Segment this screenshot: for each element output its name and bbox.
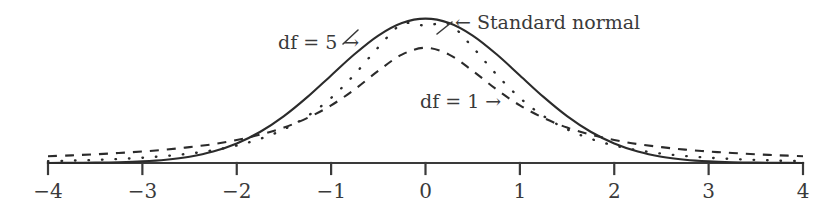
x-axis-tick-label: 1 bbox=[490, 181, 550, 201]
annotation-standard-normal: ← Standard normal bbox=[455, 13, 640, 32]
x-axis-tick-label: −4 bbox=[18, 181, 78, 201]
annotation-leader-line bbox=[437, 22, 452, 34]
x-axis-tick-label: 0 bbox=[396, 181, 456, 201]
x-axis-tick-label: 2 bbox=[584, 181, 644, 201]
x-axis-tick-label: −3 bbox=[112, 181, 172, 201]
annotation-df-1: df = 1 → bbox=[420, 92, 501, 111]
x-axis-ticks bbox=[48, 163, 803, 174]
annotation-df-5: df = 5 → bbox=[278, 33, 359, 52]
x-axis-tick-label: 4 bbox=[773, 181, 829, 201]
t-distribution-figure: −4−3−2−101234 ← Standard normal df = 5 →… bbox=[0, 0, 829, 210]
x-axis-tick-label: −2 bbox=[207, 181, 267, 201]
x-axis-tick-label: 3 bbox=[679, 181, 739, 201]
x-axis-tick-label: −1 bbox=[301, 181, 361, 201]
